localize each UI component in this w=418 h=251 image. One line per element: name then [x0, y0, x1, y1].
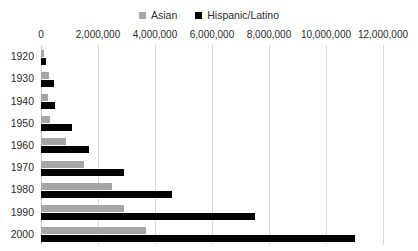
bar-asian [41, 161, 84, 168]
gridline [383, 45, 384, 245]
x-tick-label: 4,000,000 [133, 29, 178, 41]
y-tick-label: 2000 [11, 228, 34, 240]
bar-hispanic-latino [41, 80, 54, 87]
bar-asian [41, 205, 124, 212]
legend-label-hispanic-latino: Hispanic/Latino [207, 10, 279, 21]
y-tick-label: 1930 [11, 72, 34, 84]
legend-swatch-hispanic-latino [195, 12, 202, 19]
x-tick-label: 12,000,000 [358, 29, 408, 41]
x-tick-label: 10,000,000 [301, 29, 351, 41]
bar-hispanic-latino [41, 58, 46, 65]
x-tick-label: 0 [38, 29, 44, 41]
x-tick-label: 8,000,000 [247, 29, 292, 41]
bar-asian [41, 138, 66, 145]
x-axis-tick-labels: 02,000,0004,000,0006,000,0008,000,00010,… [0, 29, 418, 43]
y-tick-label: 1980 [11, 183, 34, 195]
bar-hispanic-latino [41, 124, 72, 131]
bar-chart: Asian Hispanic/Latino 02,000,0004,000,00… [0, 0, 418, 251]
bar-hispanic-latino [41, 235, 355, 242]
bar-asian [41, 227, 146, 234]
y-axis-category-labels: 192019301940195019601970198019902000 [0, 45, 38, 245]
bar-asian [41, 72, 49, 79]
bar-asian [41, 94, 48, 101]
bar-group [41, 89, 383, 111]
y-tick-label: 1970 [11, 161, 34, 173]
legend-entry-asian: Asian [139, 10, 177, 21]
x-tick-label: 2,000,000 [76, 29, 121, 41]
bar-asian [41, 183, 112, 190]
bar-group [41, 201, 383, 223]
legend-label-asian: Asian [151, 10, 177, 21]
bar-group [41, 67, 383, 89]
bar-hispanic-latino [41, 191, 172, 198]
bar-hispanic-latino [41, 169, 124, 176]
y-tick-label: 1990 [11, 206, 34, 218]
chart-legend: Asian Hispanic/Latino [0, 7, 418, 23]
y-tick-label: 1920 [11, 50, 34, 62]
y-tick-label: 1960 [11, 139, 34, 151]
bar-group [41, 134, 383, 156]
bar-group [41, 45, 383, 67]
x-tick-label: 6,000,000 [190, 29, 235, 41]
bar-group [41, 156, 383, 178]
bar-group [41, 112, 383, 134]
y-tick-label: 1950 [11, 117, 34, 129]
legend-entry-hispanic-latino: Hispanic/Latino [195, 10, 279, 21]
bar-group [41, 223, 383, 245]
bar-hispanic-latino [41, 102, 55, 109]
legend-swatch-asian [139, 12, 146, 19]
plot-area [41, 45, 383, 245]
bar-asian [41, 116, 50, 123]
y-tick-label: 1940 [11, 95, 34, 107]
bar-asian [41, 50, 44, 57]
bar-hispanic-latino [41, 213, 255, 220]
bar-group [41, 178, 383, 200]
bar-hispanic-latino [41, 146, 89, 153]
